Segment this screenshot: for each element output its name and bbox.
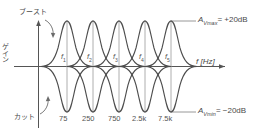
peak-label-f1: f1	[61, 53, 66, 63]
x-tick-label-75: 75	[59, 115, 67, 123]
y-axis-arrowhead	[36, 20, 41, 26]
peak-label-f4: f4	[139, 53, 144, 63]
peak-sub-f5: 5	[167, 57, 170, 63]
peak-label-f3: f3	[113, 53, 118, 63]
peak-sub-f2: 2	[89, 57, 92, 63]
boost-callout-arrowhead	[51, 33, 56, 38]
x-axis-label: f [Hz]	[196, 58, 215, 66]
peak-sub-f4: 4	[141, 57, 144, 63]
x-axis-label-text: f [Hz]	[196, 57, 215, 66]
annotation-min-rest: = −20dB	[216, 106, 246, 115]
boost-callout-label: ブースト	[19, 8, 47, 15]
x-axis-arrowhead	[219, 64, 225, 69]
cut-callout-arrowhead	[46, 96, 51, 101]
x-tick-label-7.5k: 7.5k	[158, 115, 172, 123]
annotation-max-sub: Vmax	[203, 20, 217, 26]
annotation-min-sub: Vmin	[203, 111, 216, 117]
peak-sub-f3: 3	[115, 57, 118, 63]
x-tick-label-2.5k: 2.5k	[132, 115, 146, 123]
annotation-max: AVmax= +20dB	[198, 16, 248, 26]
eq-response-chart: ブースト カット ゲイン f [Hz] f1 f2 f3 f4 f5 75 25…	[0, 0, 280, 133]
y-axis-label: ゲイン	[2, 43, 9, 63]
x-tick-label-250: 250	[82, 115, 95, 123]
annotation-max-rest: = +20dB	[217, 15, 247, 24]
peak-label-f2: f2	[87, 53, 92, 63]
peak-label-f5: f5	[165, 53, 170, 63]
cut-callout-label: カット	[14, 113, 35, 120]
x-tick-label-750: 750	[108, 115, 121, 123]
peak-sub-f1: 1	[63, 57, 66, 63]
annotation-min: AVmin= −20dB	[198, 107, 246, 117]
